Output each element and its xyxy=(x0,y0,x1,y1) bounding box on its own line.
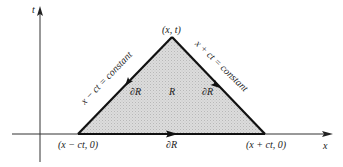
left-base-label: (x − ct, 0) xyxy=(58,140,98,150)
t-axis-label: t xyxy=(32,5,35,15)
right-base-label: (x + ct, 0) xyxy=(246,140,286,150)
region-label: R xyxy=(169,87,175,97)
left-boundary-label: ∂R xyxy=(130,87,141,97)
bottom-boundary-label: ∂R xyxy=(166,140,177,150)
x-axis-label: x xyxy=(323,141,327,151)
right-boundary-label: ∂R xyxy=(202,87,213,97)
apex-label: (x, t) xyxy=(162,25,181,35)
